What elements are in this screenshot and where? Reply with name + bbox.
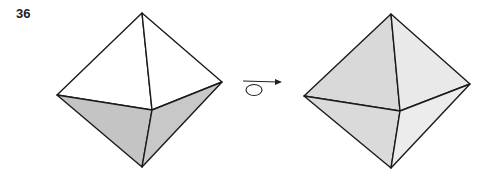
octahedron-original	[57, 13, 222, 167]
octahedron-rotated	[304, 14, 470, 168]
rotation-arrow-icon	[243, 79, 282, 96]
diagram-canvas	[0, 0, 488, 175]
